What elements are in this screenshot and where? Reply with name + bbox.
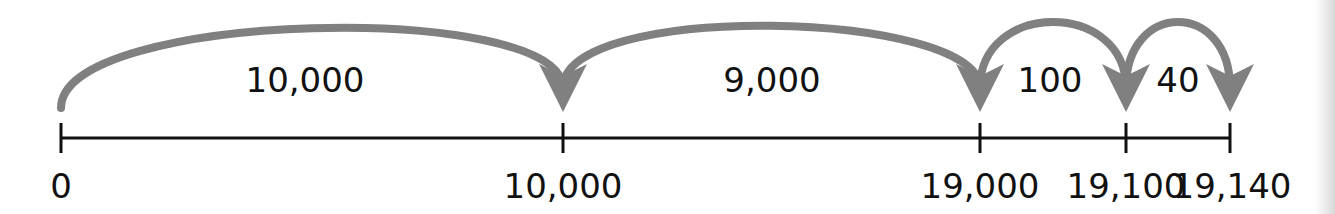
- jump-label-3: 100: [1018, 60, 1083, 100]
- tick-label-19140: 19,140: [1173, 166, 1292, 206]
- jump-label-1: 10,000: [246, 60, 365, 100]
- tick-label-10000: 10,000: [504, 166, 623, 206]
- jump-label-4: 40: [1156, 60, 1199, 100]
- tick-label-0: 0: [50, 166, 72, 206]
- tick-label-19100: 19,100: [1067, 166, 1186, 206]
- tick-label-19000: 19,000: [921, 166, 1040, 206]
- number-line: [61, 123, 1230, 153]
- jump-label-2: 9,000: [723, 60, 820, 100]
